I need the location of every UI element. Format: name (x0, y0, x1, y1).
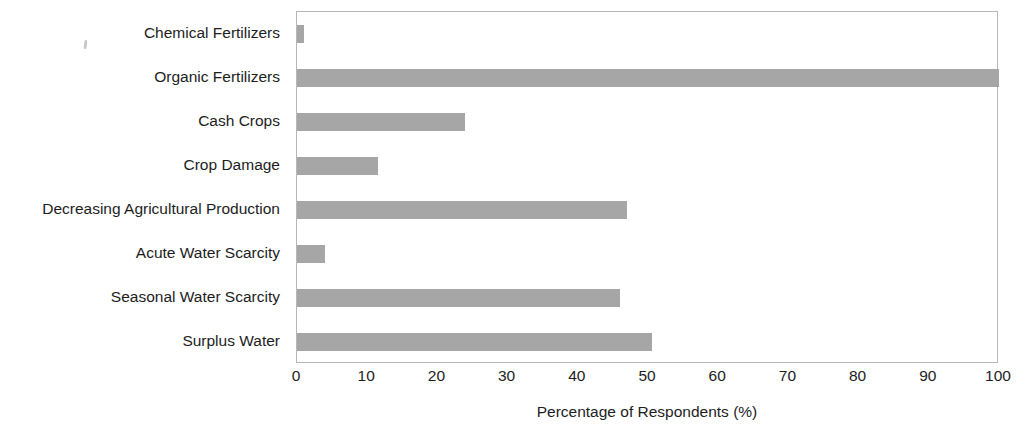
category-label: Acute Water Scarcity (0, 245, 280, 261)
x-tick-label: 30 (498, 368, 515, 384)
category-axis: Chemical FertilizersOrganic FertilizersC… (0, 11, 288, 363)
x-tick-label: 50 (638, 368, 655, 384)
bar (297, 333, 652, 351)
bar (297, 201, 627, 219)
x-axis-title: Percentage of Respondents (%) (296, 404, 998, 420)
bar (297, 157, 378, 175)
x-tick-label: 100 (985, 368, 1011, 384)
category-label: Surplus Water (0, 333, 280, 349)
x-tick-label: 0 (292, 368, 301, 384)
category-label: Chemical Fertilizers (0, 25, 280, 41)
bar (297, 69, 999, 87)
bar (297, 289, 620, 307)
x-tick-label: 60 (709, 368, 726, 384)
plot-area (296, 11, 998, 363)
bar-chart-figure: Chemical FertilizersOrganic FertilizersC… (0, 0, 1023, 434)
x-axis-ticks: 0102030405060708090100 (296, 368, 998, 388)
x-tick-label: 40 (568, 368, 585, 384)
bar (297, 25, 304, 43)
category-label: Crop Damage (0, 157, 280, 173)
bar (297, 245, 325, 263)
x-tick-label: 20 (428, 368, 445, 384)
category-label: Organic Fertilizers (0, 69, 280, 85)
bar-series (297, 12, 997, 362)
category-label: Seasonal Water Scarcity (0, 289, 280, 305)
x-tick-label: 70 (779, 368, 796, 384)
category-label: Decreasing Agricultural Production (0, 201, 280, 217)
x-tick-label: 80 (849, 368, 866, 384)
bar (297, 113, 465, 131)
x-tick-label: 90 (919, 368, 936, 384)
x-tick-label: 10 (358, 368, 375, 384)
category-label: Cash Crops (0, 113, 280, 129)
